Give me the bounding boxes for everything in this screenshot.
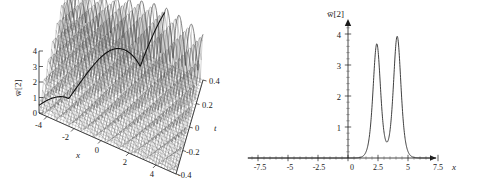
z-tick-label-4: 4 [33,46,38,56]
z-tick-label-1: 1 [33,93,37,103]
surface-plot-svg: 4 3 2 1 0 w̅[2] -4 - [0,0,240,186]
y2d-tick-label-2: 2 [337,92,341,102]
y2d-tick-label-4: 4 [337,30,342,40]
t-axis-title: t [214,123,217,133]
z-axis-title-group: w̅[2] [13,80,23,97]
line-plot-svg: -7.5 -5 -2.5 0 2.5 5 7.5 x 1 2 3 4 w̅[2] [240,0,481,186]
panel-3d-surface-plot: 4 3 2 1 0 w̅[2] -4 - [0,0,240,186]
x-tick-label-0: 0 [95,145,99,155]
y-axis-minor-ticks [346,28,349,152]
y-axis-arrow-icon [345,19,351,26]
x-tick-label-4: 4 [150,169,155,179]
panel-2d-line-plot: -7.5 -5 -2.5 0 2.5 5 7.5 x 1 2 3 4 w̅[2] [240,0,481,186]
t-tick-label-0p4: 0.4 [209,76,220,86]
x2d-tick-label-0: -7.5 [254,163,267,172]
x2d-tick-label-5: 5 [406,163,410,172]
x-tick-label-minus2: -2 [62,132,69,142]
z-tick-label-2: 2 [33,77,37,87]
x2d-tick-label-6: 7.5 [433,163,443,172]
x2d-tick-label-3: 0 [350,163,354,172]
figure-container: 4 3 2 1 0 w̅[2] -4 - [0,0,481,186]
y2d-tick-label-3: 3 [337,61,341,71]
t-axis-3d [176,80,207,175]
z-tick-label-0: 0 [33,108,37,118]
t-tick-label-0p2: 0.2 [202,100,213,110]
t-tick-label-m0p4: -0.4 [178,170,192,180]
t-tick-label-0: 0 [195,123,199,133]
x-axis-title: x [75,150,80,160]
x-tick-label-2: 2 [123,157,127,167]
x-tick-label-minus4: -4 [35,120,43,130]
data-curve-w2 [248,36,436,158]
t-tick-label-m0p2: -0.2 [186,147,199,157]
y2d-tick-label-1: 1 [337,123,341,133]
z-axis-title: w̅[2] [13,80,23,97]
y-axis-2d [345,19,351,158]
z-tick-label-3: 3 [33,62,37,72]
x2d-tick-label-4: 2.5 [373,163,383,172]
x2d-tick-label-2: -2.5 [313,163,326,172]
x2d-axis-title: x [451,162,456,172]
surface-wave-mesh [39,0,203,170]
x2d-tick-label-1: -5 [287,163,294,172]
y2d-axis-title: w̅[2] [327,9,344,19]
